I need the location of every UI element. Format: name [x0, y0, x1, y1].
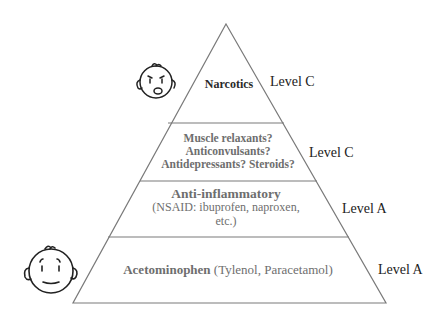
acetominophen-heading: Acetominophen — [123, 262, 210, 277]
layer-adjuvants-label: Muscle relaxants? Anticonvulsants? Antid… — [140, 132, 316, 171]
layer-narcotics-label: Narcotics — [196, 78, 262, 91]
acetominophen-sub: (Tylenol, Paracetamol) — [214, 262, 333, 277]
nsaid-sub-2: etc.) — [122, 215, 330, 228]
level-label-narcotics: Level C — [270, 74, 315, 90]
layer-acetominophen-label: Acetominophen (Tylenol, Paracetamol) — [108, 263, 348, 278]
worried-face-icon — [137, 64, 175, 98]
nsaid-sub-1: (NSAID: ibuprofen, naproxen, — [122, 201, 330, 214]
calm-face-icon — [25, 246, 78, 293]
layer-nsaid-label: Anti-inflammatory (NSAID: ibuprofen, nap… — [122, 186, 330, 228]
level-label-adjuvants: Level C — [309, 145, 354, 161]
nsaid-heading: Anti-inflammatory — [122, 186, 330, 201]
narcotics-text: Narcotics — [205, 77, 253, 91]
adjuvant-line-3: Antidepressants? Steroids? — [140, 158, 316, 171]
level-label-acetominophen: Level A — [378, 262, 423, 278]
level-label-nsaid: Level A — [342, 201, 387, 217]
adjuvant-line-1: Muscle relaxants? — [140, 132, 316, 145]
adjuvant-line-2: Anticonvulsants? — [140, 145, 316, 158]
